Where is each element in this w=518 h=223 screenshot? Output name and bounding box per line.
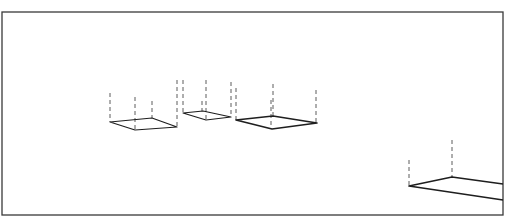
- box-base-outline: [110, 118, 177, 130]
- figure-frame: [2, 12, 503, 215]
- wireframe-box-4: [409, 140, 503, 200]
- wireframe-box-3: [236, 84, 317, 129]
- box-base-outline: [236, 116, 317, 129]
- box-base-outline: [183, 111, 231, 120]
- wireframe-boxes-drawing: [0, 0, 518, 223]
- wireframe-box-1: [110, 80, 177, 130]
- wireframe-box-2: [183, 80, 231, 120]
- boxes-group: [110, 80, 503, 200]
- box-base-outline: [409, 177, 503, 200]
- figure-canvas: [0, 0, 518, 223]
